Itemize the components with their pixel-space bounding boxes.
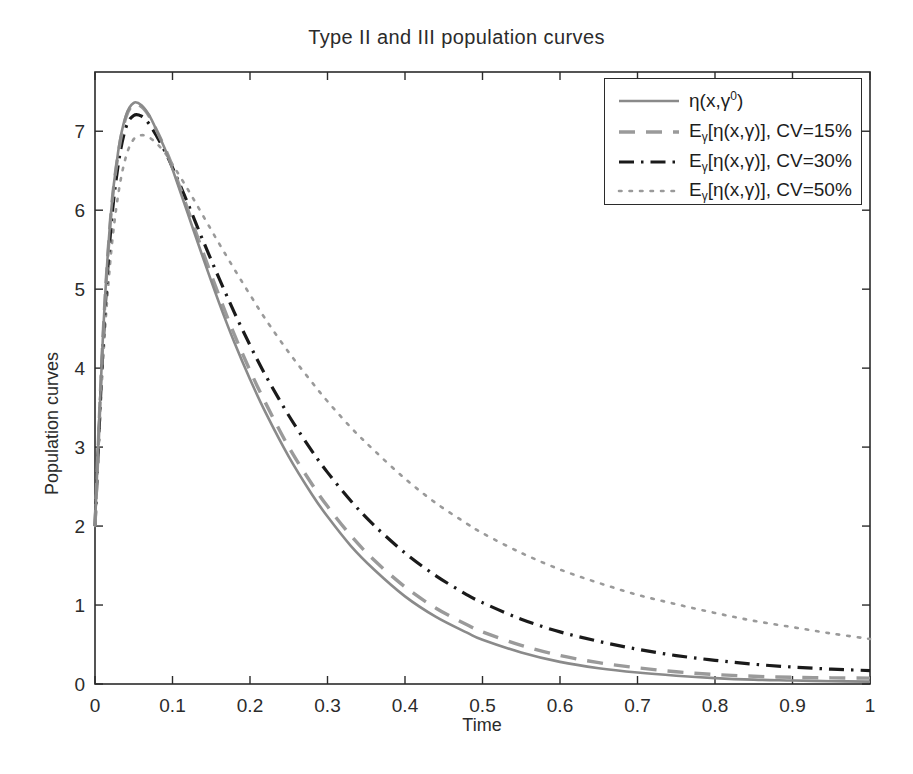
y-tick-label: 1 [74,595,85,616]
x-tick-label: 0.2 [237,695,263,716]
legend-label-cv-30: Eγ[η(x,γ)], CV=30% [689,151,852,173]
x-tick-label: 0.7 [624,695,650,716]
y-tick-label: 6 [74,200,85,221]
y-tick-label: 7 [74,121,85,142]
x-tick-label: 0.8 [702,695,728,716]
y-tick-label: 0 [74,674,85,695]
x-axis-label: Time [462,715,501,735]
x-tick-label: 0 [90,695,101,716]
x-tick-label: 0.3 [314,695,340,716]
figure-root: Type II and III population curves Popula… [0,0,913,774]
y-tick-label: 2 [74,516,85,537]
legend-label-eta-true: η(x,γ0) [689,90,743,110]
y-tick-label: 4 [74,358,85,379]
legend[interactable]: η(x,γ0)Eγ[η(x,γ)], CV=15%Eγ[η(x,γ)], CV=… [604,78,862,205]
legend-label-cv-50: Eγ[η(x,γ)], CV=50% [689,180,852,202]
x-tick-label: 0.5 [469,695,495,716]
y-tick-label: 3 [74,437,85,458]
x-tick-label: 0.4 [392,695,419,716]
x-tick-label: 0.9 [779,695,805,716]
x-tick-label: 0.1 [159,695,185,716]
legend-label-cv-15: Eγ[η(x,γ)], CV=15% [689,121,852,143]
y-axis-tick-labels: 01234567 [74,121,85,695]
y-tick-label: 5 [74,279,85,300]
x-axis-tick-labels: 00.10.20.30.40.50.60.70.80.91 [90,695,876,716]
x-tick-label: 0.6 [547,695,573,716]
x-tick-label: 1 [865,695,876,716]
